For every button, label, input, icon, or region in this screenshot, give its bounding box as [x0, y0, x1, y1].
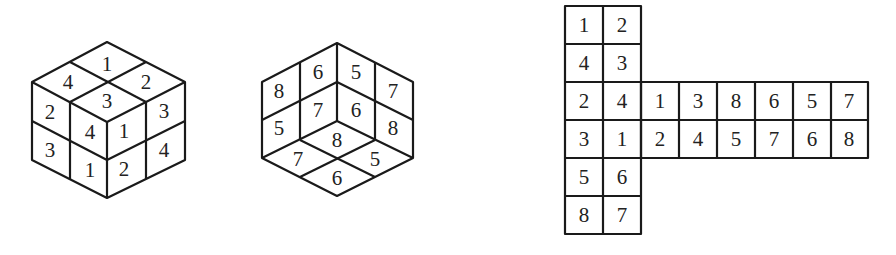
cube-net: 1 2 4 3 2 4 3 1 5 6 8 7 1 3 8 6 5 7 2 4 … — [565, 6, 868, 234]
cube-b-bottom-label: 6 — [332, 166, 343, 190]
cube-b: 8 6 5 7 5 7 6 8 8 7 5 6 — [262, 43, 413, 196]
net-cell: 3 — [693, 89, 704, 113]
cube-a-right-label: 2 — [119, 157, 130, 181]
cube-b-right-label: 8 — [388, 116, 399, 140]
net-cell: 8 — [731, 89, 742, 113]
net-cell: 4 — [617, 89, 628, 113]
net-cell: 6 — [617, 165, 628, 189]
cube-a-left-label: 2 — [45, 100, 56, 124]
cube-b-right-label: 5 — [351, 60, 362, 84]
net-cell: 7 — [844, 89, 855, 113]
net-cell: 2 — [617, 13, 628, 37]
net-cell: 3 — [579, 127, 590, 151]
cube-b-left-label: 7 — [313, 98, 324, 122]
net-cell: 4 — [693, 127, 704, 151]
cube-b-left-label: 8 — [274, 79, 285, 103]
cube-b-left-label: 6 — [313, 60, 324, 84]
cube-a: 1 4 2 3 2 4 3 1 1 3 2 4 — [32, 42, 185, 198]
net-cell: 4 — [579, 51, 590, 75]
net-cell: 6 — [807, 127, 818, 151]
cube-a-right-label: 4 — [159, 138, 170, 162]
net-cell: 2 — [579, 89, 590, 113]
cube-b-left-label: 5 — [274, 116, 285, 140]
net-cell: 5 — [807, 89, 818, 113]
net-cell: 7 — [617, 203, 628, 227]
net-cell: 5 — [579, 165, 590, 189]
net-cell: 8 — [844, 127, 855, 151]
cube-b-bottom-label: 5 — [370, 147, 381, 171]
net-cell: 1 — [655, 89, 666, 113]
cube-a-left-label: 3 — [45, 138, 56, 162]
net-cell: 6 — [769, 89, 780, 113]
net-cell: 5 — [731, 127, 742, 151]
cube-b-bottom-label: 8 — [332, 128, 343, 152]
cube-b-bottom-label: 7 — [293, 147, 304, 171]
cube-a-right-label: 1 — [119, 119, 130, 143]
cube-b-right-label: 7 — [388, 79, 399, 103]
cube-a-top-label: 3 — [102, 89, 113, 113]
cube-a-top-label: 1 — [102, 52, 113, 76]
cube-a-top-label: 2 — [141, 70, 152, 94]
cube-a-right-label: 3 — [159, 99, 170, 123]
cube-a-left-label: 1 — [85, 158, 96, 182]
net-cell: 2 — [655, 127, 666, 151]
cube-a-left-label: 4 — [85, 120, 96, 144]
net-cell: 1 — [617, 127, 628, 151]
cube-b-right-label: 6 — [351, 98, 362, 122]
net-cell: 3 — [617, 51, 628, 75]
cube-puzzle-figure: 1 4 2 3 2 4 3 1 1 3 2 4 8 6 5 7 5 7 6 8 — [0, 0, 896, 255]
cube-a-top-label: 4 — [63, 70, 74, 94]
net-cell: 1 — [579, 13, 590, 37]
net-cell: 8 — [579, 203, 590, 227]
net-cell: 7 — [769, 127, 780, 151]
